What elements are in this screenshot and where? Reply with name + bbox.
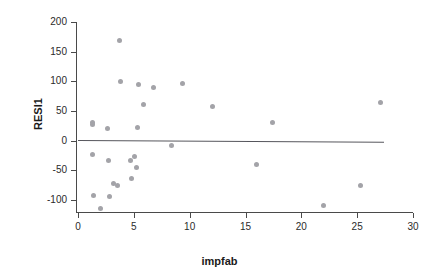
data-point: [106, 158, 111, 163]
scatter-plot-figure: RESI1 impfab 200150100500-50-10005101520…: [0, 0, 439, 278]
x-tick-label: 20: [286, 222, 316, 232]
data-point: [90, 152, 95, 157]
data-point: [136, 82, 141, 87]
data-point: [141, 102, 146, 107]
data-point: [91, 193, 96, 198]
y-tick-mark: [71, 52, 76, 53]
data-point: [132, 154, 137, 159]
data-point: [118, 79, 123, 84]
y-tick-label: 0: [33, 136, 67, 146]
y-tick-label: -50: [33, 165, 67, 175]
x-tick-label: 25: [342, 222, 372, 232]
data-point: [151, 85, 156, 90]
x-tick-mark: [413, 213, 414, 218]
data-point: [169, 143, 174, 148]
y-tick-mark: [71, 200, 76, 201]
y-tick-label: -100: [33, 195, 67, 205]
x-tick-mark: [134, 213, 135, 218]
x-tick-label: 15: [231, 222, 261, 232]
y-tick-mark: [71, 81, 76, 82]
data-point: [210, 104, 215, 109]
plot-area: 200150100500-50-100051015202530: [0, 0, 439, 278]
y-tick-mark: [71, 22, 76, 23]
data-point: [254, 162, 259, 167]
y-tick-mark: [71, 141, 76, 142]
regression-line: [78, 140, 384, 143]
y-tick-label: 50: [33, 106, 67, 116]
x-tick-label: 10: [175, 222, 205, 232]
data-point: [180, 81, 185, 86]
y-tick-mark: [71, 170, 76, 171]
data-point: [321, 203, 326, 208]
y-tick-label: 150: [33, 47, 67, 57]
data-point: [98, 206, 103, 211]
y-tick-label: 200: [33, 17, 67, 27]
data-point: [90, 122, 95, 127]
data-point: [135, 125, 140, 130]
data-point: [117, 38, 122, 43]
x-axis-line: [76, 212, 413, 213]
data-point: [378, 100, 383, 105]
data-point: [134, 165, 139, 170]
x-tick-mark: [301, 213, 302, 218]
data-point: [107, 194, 112, 199]
data-point: [129, 176, 134, 181]
x-tick-mark: [357, 213, 358, 218]
y-axis-line: [76, 22, 77, 212]
x-tick-mark: [246, 213, 247, 218]
x-tick-label: 30: [398, 222, 428, 232]
y-tick-label: 100: [33, 76, 67, 86]
x-tick-mark: [190, 213, 191, 218]
x-tick-label: 5: [119, 222, 149, 232]
y-tick-mark: [71, 111, 76, 112]
data-point: [115, 183, 120, 188]
data-point: [270, 120, 275, 125]
data-point: [105, 126, 110, 131]
x-tick-label: 0: [63, 222, 93, 232]
x-tick-mark: [78, 213, 79, 218]
data-point: [358, 183, 363, 188]
